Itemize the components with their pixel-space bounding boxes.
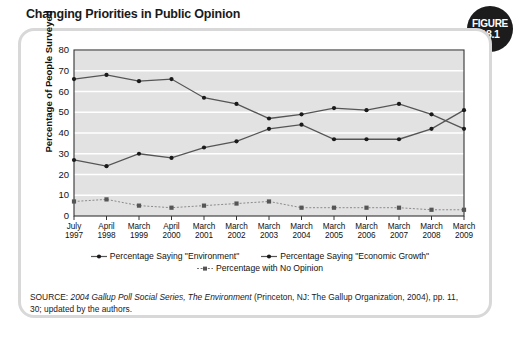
legend-row-primary: Percentage Saying "Environment" Percenta…	[40, 251, 480, 261]
data-point	[169, 77, 173, 81]
data-point	[104, 197, 108, 201]
data-point	[299, 206, 303, 210]
data-point	[169, 156, 173, 160]
data-point	[202, 96, 206, 100]
data-point	[397, 206, 401, 210]
plot-canvas	[0, 0, 522, 339]
data-point	[137, 79, 141, 83]
data-point	[137, 204, 141, 208]
data-point	[429, 208, 433, 212]
data-point	[462, 108, 466, 112]
data-point	[72, 158, 76, 162]
data-point	[202, 204, 206, 208]
data-point	[429, 127, 433, 131]
data-point	[364, 137, 368, 141]
legend-label-environment: Percentage Saying "Environment"	[110, 251, 239, 261]
data-point	[267, 116, 271, 120]
data-point	[104, 164, 108, 168]
data-point	[364, 108, 368, 112]
legend-row-secondary: Percentage with No Opinion	[40, 263, 480, 273]
data-point	[169, 206, 173, 210]
legend-swatch-economic-growth-icon	[261, 252, 277, 261]
data-point	[332, 137, 336, 141]
legend-swatch-no-opinion-icon	[197, 264, 213, 273]
legend-item-economic-growth: Percentage Saying "Economic Growth"	[261, 251, 429, 261]
data-point	[234, 102, 238, 106]
data-point	[267, 199, 271, 203]
data-point	[234, 139, 238, 143]
chart-legend: Percentage Saying "Environment" Percenta…	[40, 251, 480, 275]
legend-label-no-opinion: Percentage with No Opinion	[216, 263, 323, 273]
data-point	[397, 102, 401, 106]
legend-item-no-opinion: Percentage with No Opinion	[197, 263, 323, 273]
data-point	[299, 123, 303, 127]
line-chart: Percentage of People Surveyed 0102030405…	[0, 0, 522, 339]
data-point	[137, 152, 141, 156]
data-point	[429, 112, 433, 116]
legend-label-economic-growth: Percentage Saying "Economic Growth"	[280, 251, 429, 261]
legend-swatch-environment-icon	[91, 252, 107, 261]
data-point	[462, 208, 466, 212]
data-point	[234, 201, 238, 205]
data-point	[72, 199, 76, 203]
legend-item-environment: Percentage Saying "Environment"	[91, 251, 239, 261]
data-point	[72, 77, 76, 81]
data-point	[332, 206, 336, 210]
data-point	[299, 112, 303, 116]
data-point	[332, 106, 336, 110]
data-point	[202, 145, 206, 149]
source-prefix: SOURCE:	[30, 292, 71, 302]
figure-container: Changing Priorities in Public Opinion FI…	[0, 0, 522, 339]
source-note: SOURCE: 2004 Gallup Poll Social Series, …	[30, 291, 470, 315]
data-point	[104, 73, 108, 77]
data-point	[364, 206, 368, 210]
data-point	[462, 127, 466, 131]
source-italic-title: 2004 Gallup Poll Social Series, The Envi…	[71, 292, 252, 302]
data-point	[397, 137, 401, 141]
data-point	[267, 127, 271, 131]
